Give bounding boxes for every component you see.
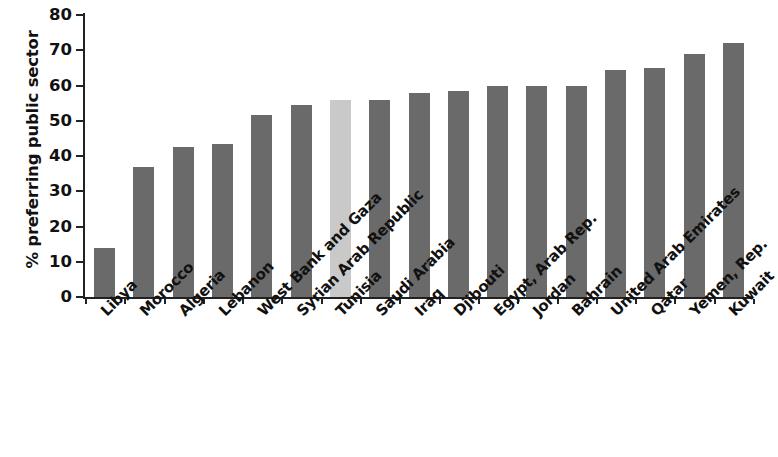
bar-slot	[94, 15, 115, 297]
y-tick-label: 70	[30, 39, 72, 61]
y-tick-mark	[76, 261, 83, 263]
bar-slot	[133, 15, 154, 297]
bar-slot	[369, 15, 390, 297]
bar-slot	[487, 15, 508, 297]
bars-container	[85, 15, 753, 297]
bar-djibouti[interactable]	[448, 91, 469, 297]
x-tick-mark	[85, 299, 87, 304]
bar-bahrain[interactable]	[566, 86, 587, 298]
y-tick-mark	[76, 190, 83, 192]
bar-slot	[173, 15, 194, 297]
y-tick-label: 0	[30, 286, 72, 308]
y-tick-label: 40	[30, 145, 72, 167]
bar-morocco[interactable]	[133, 167, 154, 297]
bar-slot	[251, 15, 272, 297]
bar-slot	[684, 15, 705, 297]
y-tick-mark	[76, 120, 83, 122]
bar-slot	[605, 15, 626, 297]
bar-slot	[212, 15, 233, 297]
y-tick-label: 20	[30, 216, 72, 238]
bar-united-arab-emirates[interactable]	[605, 70, 626, 297]
bar-libya[interactable]	[94, 248, 115, 297]
y-tick-mark	[76, 226, 83, 228]
y-tick-label: 10	[30, 251, 72, 273]
y-tick-mark	[76, 85, 83, 87]
y-tick-label: 50	[30, 110, 72, 132]
bar-yemen-rep[interactable]	[684, 54, 705, 297]
y-tick-mark	[76, 49, 83, 51]
y-tick-mark	[76, 296, 83, 298]
bar-slot	[566, 15, 587, 297]
y-tick-label: 80	[30, 4, 72, 26]
y-tick-mark	[76, 155, 83, 157]
bar-slot	[448, 15, 469, 297]
y-tick-label: 30	[30, 180, 72, 202]
y-tick-mark	[76, 14, 83, 16]
y-tick-label: 60	[30, 75, 72, 97]
